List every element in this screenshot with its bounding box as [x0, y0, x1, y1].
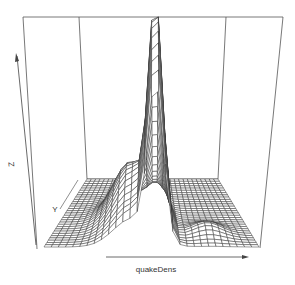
y-axis-label: Y: [52, 205, 58, 214]
x-axis-arrowhead-icon: [242, 255, 249, 259]
density-surface: [44, 17, 259, 247]
z-axis-arrowhead-icon: [15, 53, 19, 62]
box-back-left-edge: [79, 17, 87, 179]
z-axis-label: Z: [7, 161, 16, 167]
persp-plot: Z quakeDens Y: [0, 0, 295, 285]
x-axis-label: quakeDens: [136, 265, 176, 274]
box-back-right-edge: [218, 17, 226, 179]
box-front-right-edge: [260, 17, 283, 248]
plot-canvas: Z quakeDens Y: [0, 0, 295, 285]
z-axis-arrow: [17, 56, 36, 245]
